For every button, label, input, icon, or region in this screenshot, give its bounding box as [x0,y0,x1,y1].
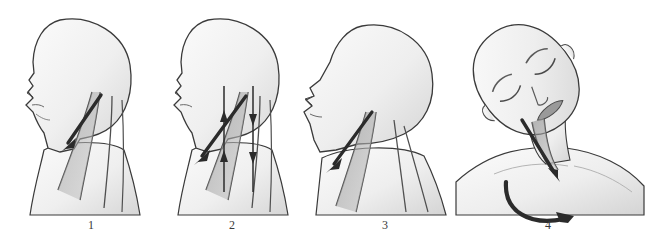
panel-caption-2: 2 [212,218,252,232]
panel-caption-4: 4 [528,218,568,232]
head-front-tilted-icon [453,5,599,154]
panel-caption-3: 3 [365,218,405,232]
panel-4 [450,0,649,249]
illustration-board: 1 2 3 4 [0,0,649,249]
panel-3 [300,0,475,249]
panel-1 [0,0,165,249]
panel-caption-1: 1 [71,218,111,232]
panel-2 [150,0,315,249]
